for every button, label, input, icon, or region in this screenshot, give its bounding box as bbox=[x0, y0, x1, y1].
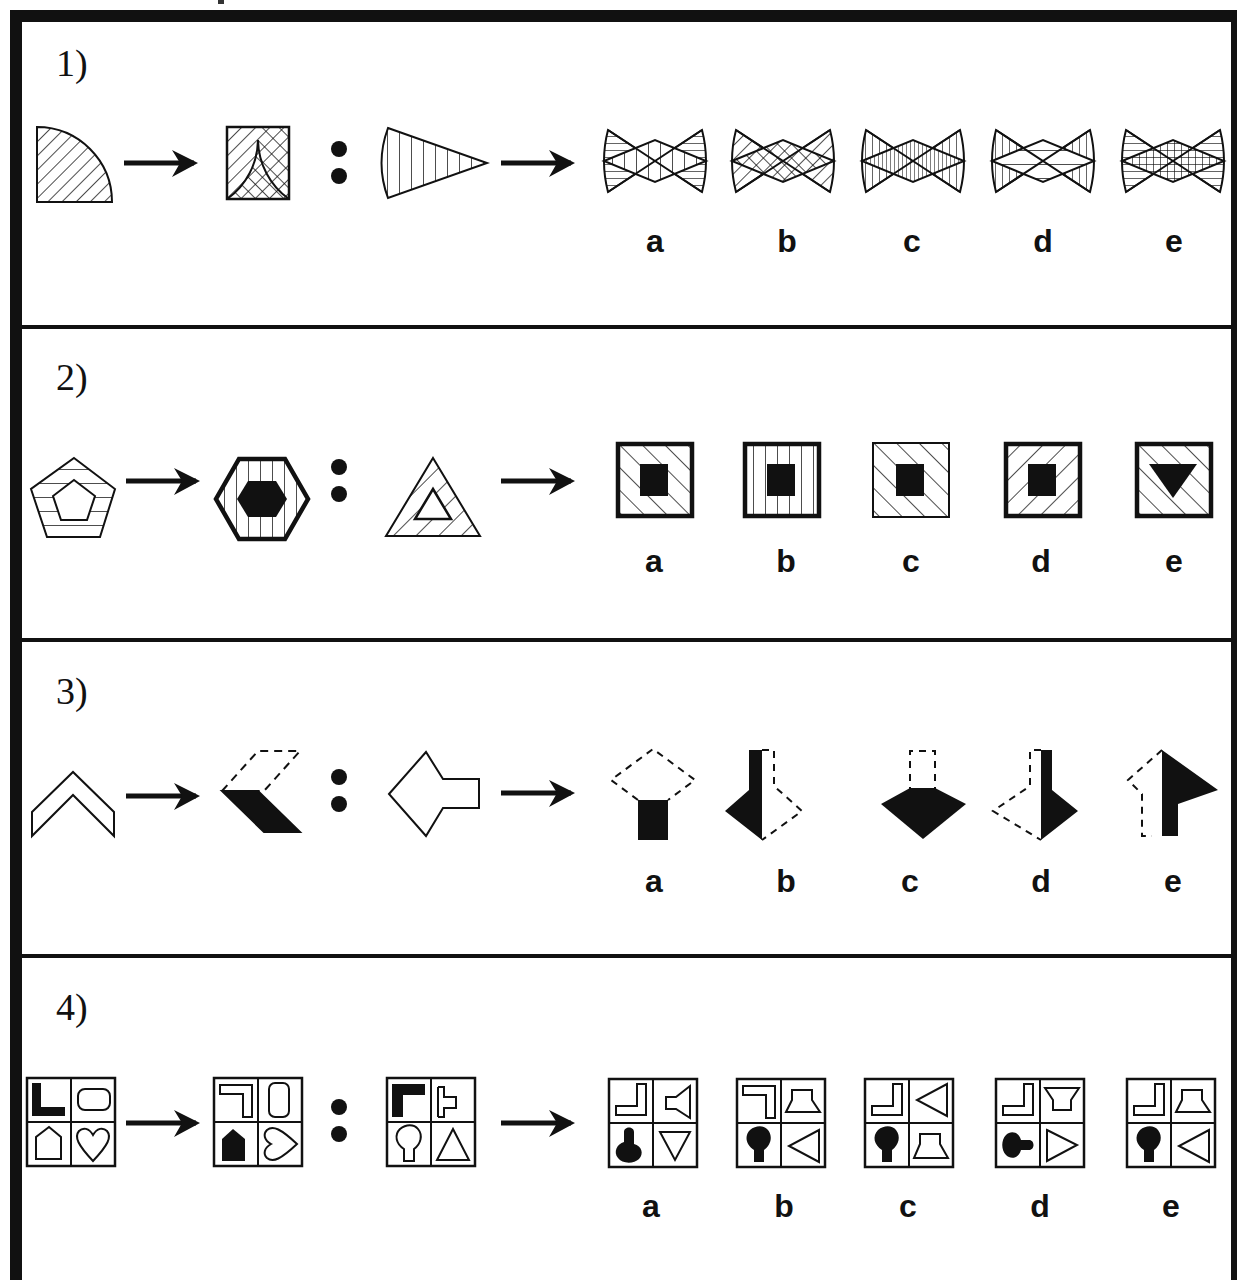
row-3-option-c-label[interactable]: c bbox=[890, 865, 930, 897]
ratio-colon-icon bbox=[320, 140, 350, 190]
arrow-right-icon bbox=[497, 1110, 577, 1140]
row-2-option-c-label[interactable]: c bbox=[891, 545, 931, 577]
row-1-option-c-bowtie-icon bbox=[858, 122, 968, 202]
row-2-option-b-square-icon bbox=[741, 440, 823, 520]
row-3-option-b-arrow-icon bbox=[712, 748, 812, 843]
ratio-colon-icon bbox=[320, 768, 350, 818]
row-4-option-e-grid-icon bbox=[1126, 1078, 1218, 1170]
row-1-option-e-bowtie-icon bbox=[1118, 122, 1228, 202]
row-1-option-c-label[interactable]: c bbox=[892, 225, 932, 257]
row-divider bbox=[22, 638, 1237, 642]
row-3-option-d-arrow-icon bbox=[980, 748, 1090, 843]
cropped-heading-fragment bbox=[218, 0, 224, 4]
row-2-option-a-square-icon bbox=[614, 440, 696, 520]
row-3-option-e-label[interactable]: e bbox=[1153, 865, 1193, 897]
arrow-right-icon bbox=[122, 783, 202, 813]
row-4-option-a-grid-icon bbox=[608, 1078, 700, 1170]
row-3-figure-c-arrow-left-icon bbox=[385, 748, 485, 848]
row-3-option-a-label[interactable]: a bbox=[634, 865, 674, 897]
arrow-right-icon bbox=[120, 150, 200, 180]
row-3-figure-b-split-chevron-icon bbox=[218, 745, 308, 840]
arrow-right-icon bbox=[497, 780, 577, 810]
row-2-option-e-square-icon bbox=[1133, 440, 1215, 520]
row-1-figure-c-curved-triangle-icon bbox=[375, 120, 495, 210]
row-1-figure-a-quarter-circle-icon bbox=[30, 120, 120, 210]
row-4-label: 4) bbox=[56, 988, 88, 1026]
row-2-option-c-square-icon bbox=[870, 440, 952, 520]
row-3-label: 3) bbox=[56, 672, 88, 710]
row-4-option-e-label[interactable]: e bbox=[1151, 1190, 1191, 1222]
row-4-option-c-grid-icon bbox=[864, 1078, 956, 1170]
row-4-figure-b-grid-icon bbox=[213, 1077, 305, 1169]
row-2-figure-c-triangle-icon bbox=[383, 455, 483, 545]
row-3-figure-a-chevron-icon bbox=[28, 770, 118, 840]
row-1-option-a-label[interactable]: a bbox=[635, 225, 675, 257]
row-2-figure-b-hexagon-icon bbox=[212, 455, 312, 545]
row-2-option-d-label[interactable]: d bbox=[1021, 545, 1061, 577]
row-1-option-d-label[interactable]: d bbox=[1023, 225, 1063, 257]
row-2-option-b-label[interactable]: b bbox=[766, 545, 806, 577]
row-1-label: 1) bbox=[56, 44, 88, 82]
row-2-option-a-label[interactable]: a bbox=[634, 545, 674, 577]
row-divider bbox=[22, 954, 1237, 958]
row-2-label: 2) bbox=[56, 358, 88, 396]
row-1-option-a-bowtie-icon bbox=[600, 122, 710, 202]
row-3-option-b-label[interactable]: b bbox=[766, 865, 806, 897]
arrow-right-icon bbox=[122, 1110, 202, 1140]
row-2-option-d-square-icon bbox=[1002, 440, 1084, 520]
row-3-option-e-arrow-icon bbox=[1118, 748, 1228, 843]
ratio-colon-icon bbox=[320, 458, 350, 508]
row-divider bbox=[22, 325, 1237, 329]
row-4-figure-a-grid-icon bbox=[26, 1077, 118, 1169]
arrow-right-icon bbox=[497, 468, 577, 498]
row-3-option-a-arrow-icon bbox=[608, 748, 698, 843]
row-1-option-b-bowtie-icon bbox=[728, 122, 838, 202]
arrow-right-icon bbox=[497, 150, 577, 180]
row-2-option-e-label[interactable]: e bbox=[1154, 545, 1194, 577]
row-1-option-d-bowtie-icon bbox=[988, 122, 1098, 202]
row-4-option-b-grid-icon bbox=[736, 1078, 828, 1170]
row-1-option-e-label[interactable]: e bbox=[1154, 225, 1194, 257]
arrow-right-icon bbox=[122, 468, 202, 498]
row-4-option-b-label[interactable]: b bbox=[764, 1190, 804, 1222]
row-2-figure-a-pentagon-icon bbox=[28, 455, 120, 543]
row-4-option-d-grid-icon bbox=[995, 1078, 1087, 1170]
row-3-option-c-arrow-icon bbox=[815, 748, 1005, 843]
row-4-option-c-label[interactable]: c bbox=[888, 1190, 928, 1222]
row-1-option-b-label[interactable]: b bbox=[767, 225, 807, 257]
row-4-option-a-label[interactable]: a bbox=[631, 1190, 671, 1222]
row-3-option-d-label[interactable]: d bbox=[1021, 865, 1061, 897]
row-1-figure-b-lens-square-icon bbox=[220, 120, 300, 210]
row-4-figure-c-grid-icon bbox=[386, 1077, 478, 1169]
row-4-option-d-label[interactable]: d bbox=[1020, 1190, 1060, 1222]
ratio-colon-icon bbox=[320, 1098, 350, 1148]
